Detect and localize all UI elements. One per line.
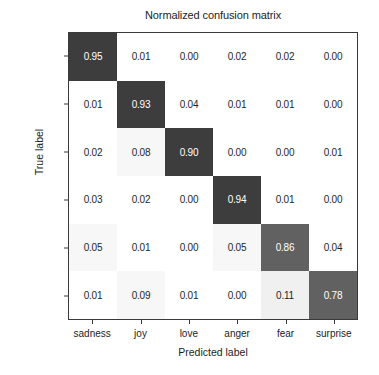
matrix-cell: 0.00 — [165, 224, 213, 272]
matrix-cell: 0.00 — [261, 128, 309, 176]
matrix-cell: 0.02 — [69, 128, 117, 176]
x-tick-mark — [189, 320, 190, 324]
matrix-cell: 0.86 — [261, 224, 309, 272]
matrix-cell: 0.01 — [69, 81, 117, 129]
confusion-matrix-grid: 0.950.010.000.020.020.000.010.930.040.01… — [69, 33, 357, 319]
matrix-cell: 0.05 — [213, 224, 261, 272]
matrix-cell: 0.00 — [213, 271, 261, 319]
matrix-cell: 0.01 — [213, 81, 261, 129]
matrix-cell: 0.01 — [165, 271, 213, 319]
confusion-matrix-figure: Normalized confusion matrix True label P… — [0, 0, 379, 375]
matrix-cell: 0.03 — [69, 176, 117, 224]
x-tick-label: surprise — [289, 328, 379, 339]
y-tick-mark — [64, 56, 68, 57]
matrix-cell: 0.01 — [261, 176, 309, 224]
y-tick-mark — [64, 104, 68, 105]
matrix-cell: 0.02 — [213, 33, 261, 81]
x-axis-label: Predicted label — [68, 346, 358, 358]
matrix-cell: 0.08 — [117, 128, 165, 176]
x-tick-mark — [92, 320, 93, 324]
y-tick-mark — [64, 248, 68, 249]
matrix-cell: 0.94 — [213, 176, 261, 224]
matrix-cell: 0.90 — [165, 128, 213, 176]
heatmap-plot-area: 0.950.010.000.020.020.000.010.930.040.01… — [68, 32, 358, 320]
matrix-cell: 0.78 — [309, 271, 357, 319]
matrix-cell: 0.02 — [261, 33, 309, 81]
x-tick-mark — [286, 320, 287, 324]
matrix-cell: 0.00 — [309, 81, 357, 129]
matrix-cell: 0.00 — [309, 176, 357, 224]
y-tick-mark — [64, 296, 68, 297]
matrix-cell: 0.09 — [117, 271, 165, 319]
matrix-cell: 0.93 — [117, 81, 165, 129]
x-tick-mark — [237, 320, 238, 324]
matrix-cell: 0.11 — [261, 271, 309, 319]
matrix-cell: 0.01 — [69, 271, 117, 319]
y-tick-mark — [64, 152, 68, 153]
y-tick-mark — [64, 200, 68, 201]
matrix-cell: 0.00 — [165, 33, 213, 81]
matrix-cell: 0.02 — [117, 176, 165, 224]
matrix-cell: 0.00 — [165, 176, 213, 224]
matrix-cell: 0.01 — [261, 81, 309, 129]
x-tick-mark — [141, 320, 142, 324]
matrix-cell: 0.04 — [165, 81, 213, 129]
matrix-cell: 0.00 — [309, 33, 357, 81]
matrix-cell: 0.01 — [117, 224, 165, 272]
page-title: Normalized confusion matrix — [68, 9, 358, 21]
y-axis-label: True label — [33, 107, 45, 197]
matrix-cell: 0.05 — [69, 224, 117, 272]
matrix-cell: 0.01 — [117, 33, 165, 81]
matrix-cell: 0.01 — [309, 128, 357, 176]
x-tick-mark — [334, 320, 335, 324]
matrix-cell: 0.95 — [69, 33, 117, 81]
matrix-cell: 0.00 — [213, 128, 261, 176]
matrix-cell: 0.04 — [309, 224, 357, 272]
